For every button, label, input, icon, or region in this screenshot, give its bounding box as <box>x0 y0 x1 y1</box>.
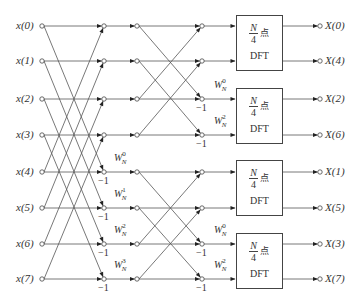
minus-one-label: −1 <box>98 176 109 186</box>
dft-block: N4点DFT <box>236 88 283 144</box>
input-node <box>40 206 44 210</box>
output-label: X(7) <box>325 273 345 284</box>
twiddle-factor-label: W2N <box>214 259 231 273</box>
dft-block: N4点DFT <box>236 15 283 71</box>
fraction-denominator: 4 <box>249 252 258 263</box>
stage2-cross-wire <box>139 61 200 133</box>
twiddle-factor-label: W2N <box>214 115 231 129</box>
output-node <box>318 24 322 28</box>
input-node <box>40 170 44 174</box>
stage1-node <box>102 170 106 174</box>
fraction-numerator: N <box>249 95 258 107</box>
stage2-output-node <box>200 206 204 210</box>
fft-flow-graph <box>0 0 362 308</box>
twiddle-factor-label: W0N <box>214 224 231 238</box>
stage1-node <box>102 277 106 281</box>
fraction-numerator: N <box>249 22 258 34</box>
fraction-denominator: 4 <box>249 107 258 118</box>
stage2-output-node <box>200 24 204 28</box>
stage1-node <box>102 24 106 28</box>
twiddle-factor-label: W1N <box>114 188 131 202</box>
output-node <box>318 97 322 101</box>
input-label: x(7) <box>16 273 34 284</box>
output-node <box>318 170 322 174</box>
block-size-fraction: N4 <box>249 95 258 118</box>
output-node <box>318 206 322 210</box>
block-size-fraction: N4 <box>249 167 258 190</box>
output-label: X(0) <box>325 20 345 31</box>
stage2-cross-wire <box>139 210 200 279</box>
stage2-cross-wire <box>139 28 200 99</box>
output-label: X(1) <box>325 166 345 177</box>
output-node <box>318 59 322 63</box>
fraction-denominator: 4 <box>249 34 258 45</box>
block-size-fraction: N4 <box>249 22 258 45</box>
stage2-cross-wire <box>139 26 200 97</box>
stage2-input-node <box>135 133 139 137</box>
twiddle-factor-label: W0N <box>114 152 131 166</box>
stage1-node <box>102 59 106 63</box>
point-suffix: 点 <box>260 244 269 257</box>
dft-block: N4点DFT <box>236 160 283 216</box>
input-label: x(6) <box>16 238 34 249</box>
stage1-node <box>102 133 106 137</box>
stage1-cross-wire <box>44 61 103 206</box>
minus-one-label: −1 <box>98 248 109 258</box>
stage2-output-node <box>200 277 204 281</box>
dft-label: DFT <box>237 268 282 279</box>
stage2-input-node <box>135 24 139 28</box>
dft-block: N4点DFT <box>236 233 283 289</box>
stage1-cross-wire <box>44 135 103 277</box>
minus-one-label: −1 <box>98 283 109 293</box>
dft-label: DFT <box>237 123 282 134</box>
output-label: X(5) <box>325 202 345 213</box>
minus-one-label: −1 <box>196 139 207 149</box>
stage2-output-node <box>200 133 204 137</box>
stage2-input-node <box>135 59 139 63</box>
fraction-denominator: 4 <box>249 179 258 190</box>
dft-label: DFT <box>237 195 282 206</box>
twiddle-factor-label: W2N <box>114 224 131 238</box>
minus-one-label: −1 <box>196 248 207 258</box>
point-suffix: 点 <box>260 26 269 39</box>
output-label: X(6) <box>325 129 345 140</box>
input-node <box>40 242 44 246</box>
output-label: X(3) <box>325 238 345 249</box>
stage2-output-node <box>200 170 204 174</box>
stage1-cross-wire <box>44 99 103 242</box>
minus-one-label: −1 <box>196 103 207 113</box>
output-node <box>318 242 322 246</box>
input-node <box>40 24 44 28</box>
minus-one-label: −1 <box>98 212 109 222</box>
point-suffix: 点 <box>260 99 269 112</box>
input-label: x(5) <box>16 202 34 213</box>
stage1-node <box>102 206 106 210</box>
stage1-cross-wire <box>44 28 103 172</box>
fraction-numerator: N <box>249 240 258 252</box>
output-node <box>318 133 322 137</box>
stage1-node <box>102 97 106 101</box>
input-label: x(0) <box>16 20 34 31</box>
twiddle-factor-label: W3N <box>114 259 131 273</box>
stage2-input-node <box>135 242 139 246</box>
twiddle-factor-label: W0N <box>214 79 231 93</box>
stage2-input-node <box>135 277 139 281</box>
input-label: x(1) <box>16 55 34 66</box>
input-node <box>40 97 44 101</box>
stage1-node <box>102 242 106 246</box>
input-node <box>40 133 44 137</box>
stage1-cross-wire <box>44 26 103 170</box>
input-label: x(3) <box>16 129 34 140</box>
stage2-input-node <box>135 97 139 101</box>
stage1-cross-wire <box>44 101 103 244</box>
stage2-output-node <box>200 97 204 101</box>
stage2-input-node <box>135 206 139 210</box>
stage2-cross-wire <box>139 172 200 242</box>
stage2-output-node <box>200 242 204 246</box>
input-label: x(2) <box>16 93 34 104</box>
block-size-fraction: N4 <box>249 240 258 263</box>
minus-one-label: −1 <box>196 283 207 293</box>
input-label: x(4) <box>16 166 34 177</box>
stage2-cross-wire <box>139 174 200 244</box>
stage2-cross-wire <box>139 208 200 277</box>
